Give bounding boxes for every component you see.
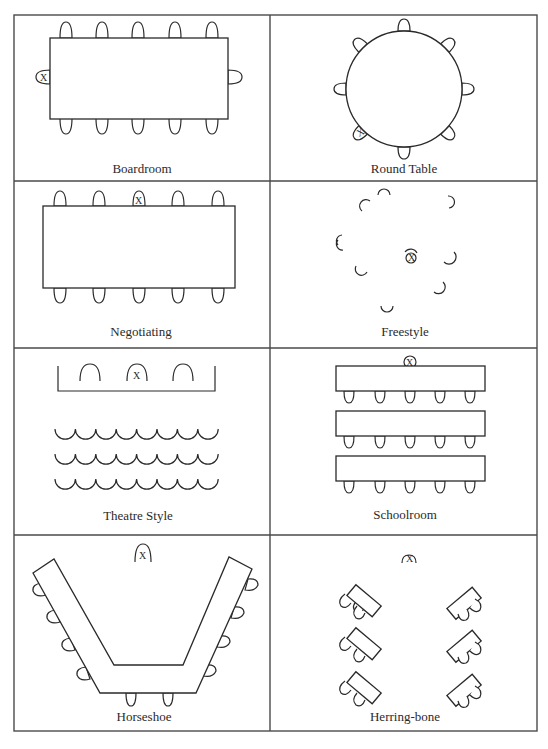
herring-table-left-2 xyxy=(347,628,381,660)
round-table xyxy=(346,31,462,147)
caption-freestyle: Freestyle xyxy=(381,324,429,339)
panel-herring-bone: X xyxy=(340,553,482,724)
scattered-chairs: X xyxy=(336,189,456,312)
chairs-bottom xyxy=(54,288,224,303)
caption-round-table: Round Table xyxy=(371,161,438,176)
seating-layouts-diagram: X Boardroom X Round Table xyxy=(0,0,548,749)
marker-x: X xyxy=(135,195,143,206)
caption-schoolroom: Schoolroom xyxy=(373,507,437,522)
table xyxy=(50,38,228,119)
panel-horseshoe: X Horseshoe xyxy=(33,544,258,724)
chairs-top xyxy=(60,22,218,38)
panel-freestyle: X Freestyle xyxy=(336,189,456,339)
panel-schoolroom: X Schoolroom xyxy=(336,356,485,522)
row-3 xyxy=(336,456,485,493)
herring-table-left-3 xyxy=(347,672,381,704)
marker-x: X xyxy=(408,252,416,263)
table xyxy=(43,206,235,288)
marker-x: X xyxy=(40,72,48,83)
row-2 xyxy=(336,411,485,448)
row-1 xyxy=(336,366,485,403)
panel-boardroom: X Boardroom xyxy=(36,22,242,176)
marker-x: X xyxy=(139,550,147,561)
panel-theatre-style: X Theatre Style xyxy=(55,364,218,523)
audience-rows xyxy=(55,429,218,489)
caption-boardroom: Boardroom xyxy=(112,161,171,176)
caption-horseshoe: Horseshoe xyxy=(117,709,172,724)
caption-theatre-style: Theatre Style xyxy=(103,508,173,523)
marker-x: X xyxy=(133,370,141,381)
horseshoe-table xyxy=(33,557,252,693)
caption-negotiating: Negotiating xyxy=(110,324,172,339)
chairs-bottom xyxy=(126,693,173,706)
panel-round-table: X Round Table xyxy=(334,19,474,176)
marker-x: X xyxy=(406,553,414,564)
chair-right xyxy=(228,70,242,84)
caption-herring-bone: Herring-bone xyxy=(370,709,440,724)
panel-negotiating: X Negotiating xyxy=(43,191,235,339)
chairs-bottom xyxy=(60,118,218,134)
